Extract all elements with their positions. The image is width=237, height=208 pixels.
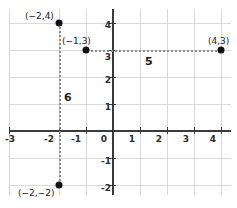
x-tick-label-neg3: -3 bbox=[5, 135, 15, 144]
gridline-vertical-x-neg3 bbox=[9, 9, 10, 195]
y-tick-label-4: 4 bbox=[99, 21, 111, 30]
point-label-neg1-3: (−1,3) bbox=[62, 37, 91, 46]
gridline-horizontal-y-neg1 bbox=[9, 158, 231, 159]
gridline-horizontal-y-neg2 bbox=[9, 185, 231, 186]
y-tick-label-neg2: -2 bbox=[95, 184, 111, 193]
point-neg2-neg2 bbox=[56, 182, 63, 189]
point-label-neg2-4: (−2,4) bbox=[25, 12, 54, 21]
y-tick-label-neg1: -1 bbox=[95, 157, 111, 166]
gridline-horizontal-y-1 bbox=[9, 104, 231, 105]
x-tick-label-3: 3 bbox=[183, 135, 189, 144]
x-tick-label-4: 4 bbox=[210, 135, 216, 144]
horizontal-segment-label: 5 bbox=[145, 56, 153, 67]
point-neg1-3 bbox=[83, 47, 90, 54]
y-axis bbox=[112, 9, 114, 195]
gridline-vertical-x-3 bbox=[194, 9, 195, 195]
x-axis bbox=[9, 130, 231, 132]
horizontal-segment bbox=[86, 50, 221, 52]
x-tick-label-neg1: -1 bbox=[71, 135, 81, 144]
point-neg2-4 bbox=[56, 20, 63, 27]
x-tick-label-neg2: -2 bbox=[44, 135, 54, 144]
gridline-vertical-x-1 bbox=[140, 9, 141, 195]
y-tick-label-3: 3 bbox=[99, 53, 111, 62]
x-tick-1 bbox=[140, 127, 141, 134]
x-tick-3 bbox=[194, 127, 195, 134]
vertical-segment-label: 6 bbox=[64, 92, 72, 103]
gridline-horizontal-y-4 bbox=[9, 23, 231, 24]
coordinate-plane: -3 -2 -1 0 1 2 3 4 4 3 2 1 -1 -2 6 5 (−2… bbox=[0, 0, 237, 208]
x-tick-4 bbox=[221, 127, 222, 134]
x-tick-label-2: 2 bbox=[156, 135, 162, 144]
x-tick-label-1: 1 bbox=[129, 135, 135, 144]
point-4-3 bbox=[218, 47, 225, 54]
x-tick-neg3 bbox=[9, 127, 10, 134]
point-label-4-3: (4,3) bbox=[208, 37, 229, 46]
gridline-horizontal-y-2 bbox=[9, 77, 231, 78]
vertical-segment bbox=[59, 23, 61, 185]
gridline-vertical-x-2 bbox=[167, 9, 168, 195]
x-tick-neg1 bbox=[86, 127, 87, 134]
x-tick-2 bbox=[167, 127, 168, 134]
x-tick-label-0: 0 bbox=[101, 135, 107, 144]
point-label-neg2-neg2: (−2,−2) bbox=[18, 189, 54, 198]
y-tick-label-1: 1 bbox=[99, 103, 111, 112]
y-tick-label-2: 2 bbox=[99, 76, 111, 85]
